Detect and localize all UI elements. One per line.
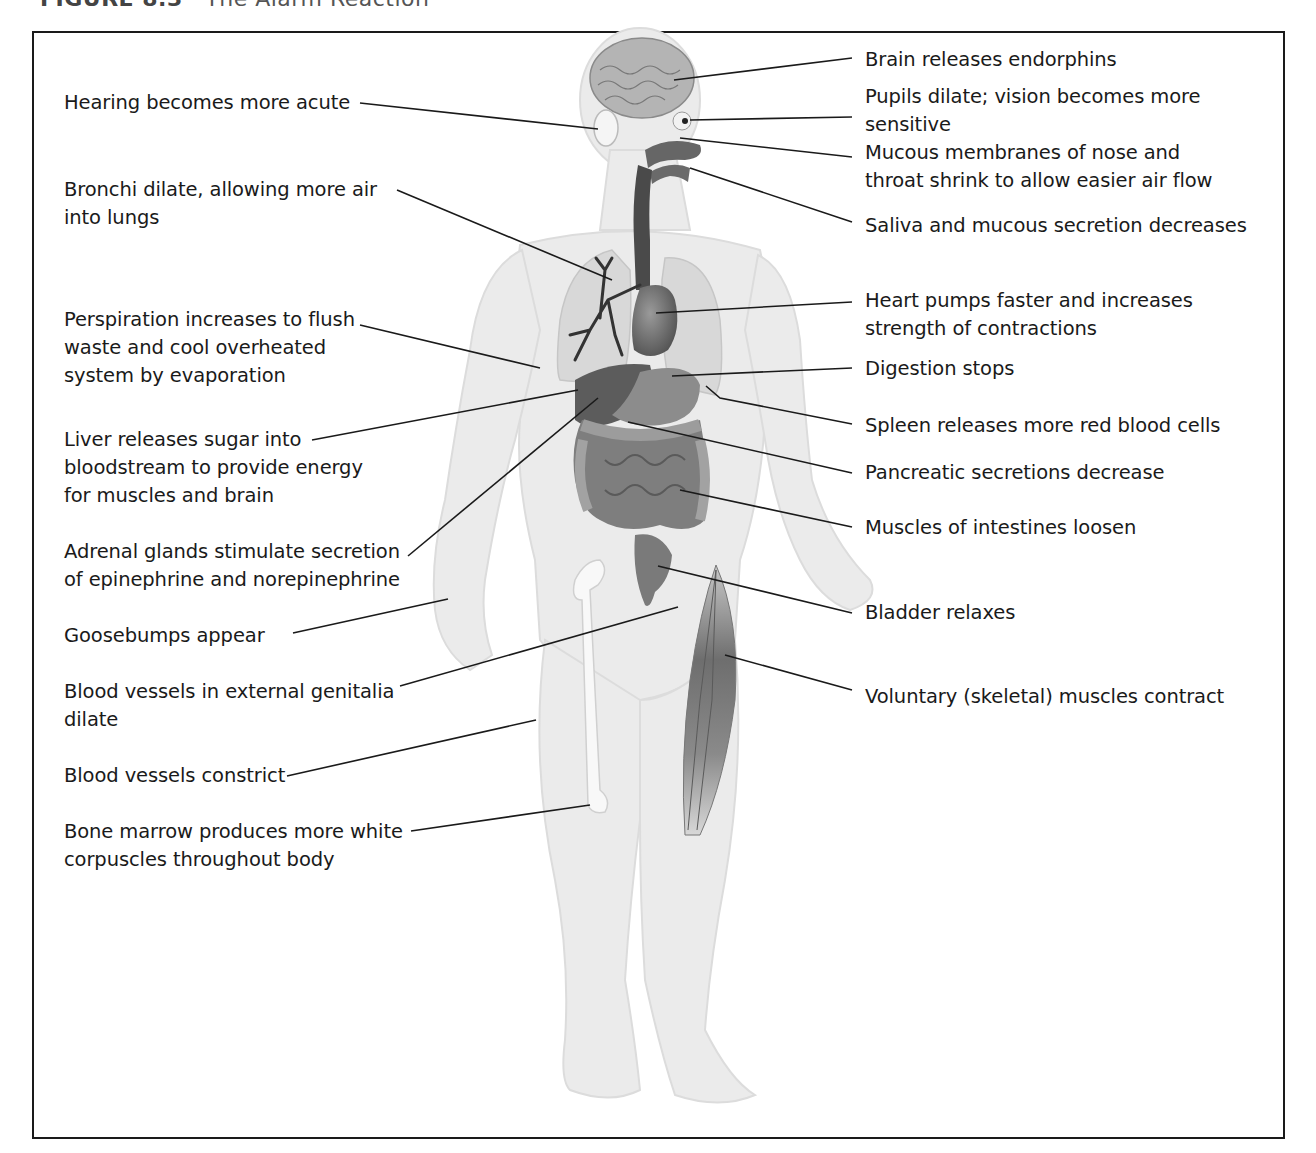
label-bone-marrow: Bone marrow produces more white corpuscl… <box>64 818 403 874</box>
label-perspiration: Perspiration increases to flush waste an… <box>64 306 355 390</box>
label-pancreas: Pancreatic secretions decrease <box>865 459 1164 487</box>
label-brain: Brain releases endorphins <box>865 46 1117 74</box>
label-liver: Liver releases sugar into bloodstream to… <box>64 426 363 510</box>
brain <box>590 38 694 118</box>
label-digestion: Digestion stops <box>865 355 1014 383</box>
label-bladder: Bladder relaxes <box>865 599 1015 627</box>
trachea <box>634 165 653 290</box>
label-hearing: Hearing becomes more acute <box>64 89 350 117</box>
label-mucous: Mucous membranes of nose and throat shri… <box>865 139 1212 195</box>
ear <box>594 110 618 146</box>
label-genitalia: Blood vessels in external genitalia dila… <box>64 678 394 734</box>
heart <box>632 285 677 356</box>
intestines <box>574 420 707 529</box>
label-saliva: Saliva and mucous secretion decreases <box>865 212 1247 240</box>
label-heart: Heart pumps faster and increases strengt… <box>865 287 1193 343</box>
label-spleen: Spleen releases more red blood cells <box>865 412 1220 440</box>
label-skeletal-muscles: Voluntary (skeletal) muscles contract <box>865 683 1224 711</box>
label-adrenal: Adrenal glands stimulate secretion of ep… <box>64 538 400 594</box>
label-pupils: Pupils dilate; vision becomes more sensi… <box>865 83 1200 139</box>
label-vessels-constrict: Blood vessels constrict <box>64 762 285 790</box>
label-intestines: Muscles of intestines loosen <box>865 514 1136 542</box>
label-goosebumps: Goosebumps appear <box>64 622 265 650</box>
label-bronchi: Bronchi dilate, allowing more air into l… <box>64 176 377 232</box>
